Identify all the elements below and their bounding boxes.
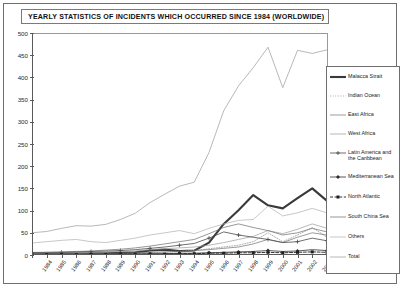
x-axis-tick-mark [298, 255, 299, 258]
legend-item[interactable]: East Africa [330, 111, 400, 119]
legend-item[interactable]: West Africa [330, 130, 400, 138]
legend-item[interactable]: Indian Ocean [330, 92, 400, 100]
x-axis-tick-label: 1995 [203, 259, 215, 273]
chart-legend: Malacca StraitIndian OceanEast AfricaWes… [326, 66, 400, 274]
x-axis-tick-label: 1998 [247, 259, 259, 273]
x-axis-tick-label: 1987 [85, 259, 97, 273]
data-point-marker [296, 240, 300, 244]
x-axis-tick-mark [283, 255, 284, 258]
y-axis-tick-label: 450 [6, 52, 28, 59]
legend-item-label: Total [346, 253, 359, 259]
legend-item-label: East Africa [346, 111, 374, 117]
legend-item-label: North Atlantic [346, 193, 380, 199]
legend-swatch-icon [330, 233, 346, 241]
y-axis-tick-label: 0 [6, 252, 28, 259]
x-axis-tick-label: 2000 [276, 259, 288, 273]
x-axis-tick-label: 1994 [188, 259, 200, 273]
series-line [32, 206, 327, 243]
x-axis-tick-label: 1997 [232, 259, 244, 273]
x-axis-tick-mark [121, 255, 122, 258]
x-axis-tick-label: 1984 [40, 259, 52, 273]
legend-swatch-icon [330, 73, 346, 81]
series-total [32, 47, 327, 233]
legend-item[interactable]: Malacca Strait [330, 73, 400, 81]
legend-item[interactable]: Latin America and the Caribbean [330, 149, 400, 161]
legend-item-label: Others [346, 233, 364, 239]
legend-item-label: Mediterranean Sea [346, 173, 394, 179]
x-axis-tick-mark [47, 255, 48, 258]
x-axis-tick-label: 1996 [217, 259, 229, 273]
data-point-marker [336, 151, 340, 155]
x-axis-tick-label: 1985 [55, 259, 67, 273]
legend-item[interactable]: Mediterranean Sea [330, 173, 400, 181]
x-axis-tick-label: 1986 [70, 259, 82, 273]
x-axis-tick-mark [32, 255, 33, 258]
legend-swatch-icon [330, 193, 346, 201]
legend-swatch-icon [330, 130, 346, 138]
data-point-marker [267, 251, 270, 254]
chart-frame: YEARLY STATISTICS OF INCIDENTS WHICH OCC… [3, 3, 397, 284]
y-axis-tick-mark [30, 122, 34, 123]
y-axis-tick-mark [30, 166, 34, 167]
series-line [32, 224, 327, 253]
legend-item-label: West Africa [346, 130, 375, 136]
y-axis-tick-mark [30, 55, 34, 56]
y-axis-tick-label: 50 [6, 229, 28, 236]
legend-item[interactable]: North Atlantic [330, 193, 400, 201]
x-axis-tick-label: 1991 [144, 259, 156, 273]
x-axis-tick-mark [253, 255, 254, 258]
legend-item-label: South China Sea [346, 213, 389, 219]
y-axis-tick-label: 500 [6, 30, 28, 37]
data-point-marker [237, 233, 241, 237]
y-axis-tick-mark [30, 33, 34, 34]
y-axis-tick-label: 300 [6, 118, 28, 125]
y-axis-tick-mark [30, 144, 34, 145]
y-axis-tick-mark [30, 188, 34, 189]
data-point-marker [311, 250, 314, 253]
data-point-marker [266, 237, 270, 241]
y-axis-tick-label: 200 [6, 163, 28, 170]
x-axis-tick-mark [106, 255, 107, 258]
x-axis-tick-label: 1989 [114, 259, 126, 273]
legend-swatch-icon [330, 149, 346, 157]
page-title: YEARLY STATISTICS OF INCIDENTS WHICH OCC… [22, 13, 324, 21]
x-axis-tick-label: 2002 [306, 259, 318, 273]
chart-series-canvas [32, 33, 328, 255]
legend-swatch-icon [330, 213, 346, 221]
legend-item-label: Indian Ocean [346, 92, 380, 98]
legend-item[interactable]: Others [330, 233, 400, 241]
legend-item[interactable]: Total [330, 253, 400, 261]
y-axis-tick-label: 400 [6, 74, 28, 81]
y-axis-tick-label: 100 [6, 207, 28, 214]
legend-item-label: Malacca Strait [346, 73, 382, 79]
y-axis-tick-mark [30, 77, 34, 78]
x-axis-tick-mark [76, 255, 77, 258]
y-axis-tick-label: 150 [6, 185, 28, 192]
x-axis-tick-mark [135, 255, 136, 258]
x-axis-tick-mark [224, 255, 225, 258]
legend-item-label: Latin America and the Caribbean [346, 149, 400, 161]
x-axis-tick-mark [239, 255, 240, 258]
legend-swatch-icon [330, 253, 346, 261]
y-axis-tick-label: 350 [6, 96, 28, 103]
data-point-marker [296, 251, 299, 254]
y-axis-tick-label: 250 [6, 141, 28, 148]
x-axis-tick-label: 1990 [129, 259, 141, 273]
series-line [32, 47, 327, 233]
x-axis-tick-mark [194, 255, 195, 258]
data-point-marker [252, 251, 255, 254]
x-axis-tick-mark [209, 255, 210, 258]
series-others [32, 206, 327, 243]
legend-swatch-icon [330, 111, 346, 119]
legend-swatch-icon [330, 92, 346, 100]
data-point-marker [237, 251, 240, 254]
data-point-marker [281, 251, 284, 254]
y-axis-tick-mark [30, 100, 34, 101]
x-axis-tick-mark [165, 255, 166, 258]
y-axis-tick-mark [30, 211, 34, 212]
series-west-africa [32, 224, 327, 253]
plot-area [32, 33, 328, 255]
x-axis-tick-label: 1999 [262, 259, 274, 273]
legend-item[interactable]: South China Sea [330, 213, 400, 221]
y-axis-tick-mark [30, 233, 34, 234]
